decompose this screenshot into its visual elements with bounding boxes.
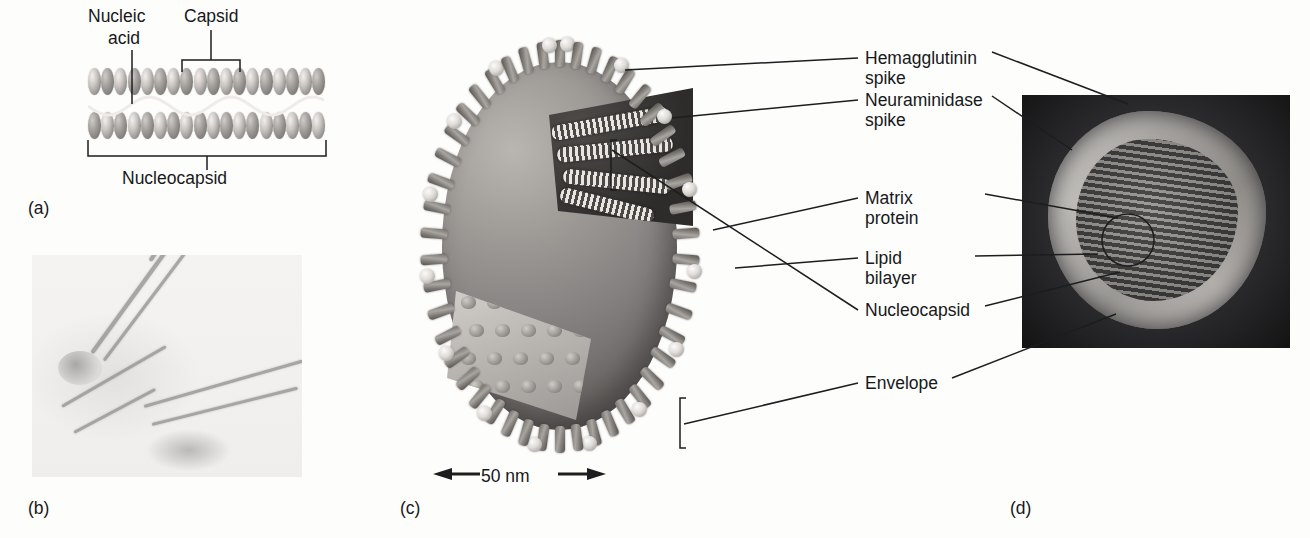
bracket-nucleocapsid-a [88,140,326,156]
neuraminidase-spike [423,187,438,202]
label-lipid-line1: Lipid [865,248,902,268]
micrograph-debris [58,351,102,385]
helical-capsid-illustration [88,68,326,140]
micrograph-virion-core [1076,139,1238,301]
hemagglutinin-spike [500,409,520,438]
label-nucleic-acid-line2: acid [108,28,140,48]
matrix-protein-bump [521,324,536,337]
micrograph-filament [90,255,181,354]
neuraminidase-spike [632,402,647,417]
label-nucleic-acid-line1: Nucleic [88,6,145,26]
neuraminidase-spike [542,38,557,53]
scale-bar-label: 50 nm [481,466,530,486]
hemagglutinin-spike [420,227,448,239]
matrix-protein-bump [547,380,562,393]
matrix-protein-bump [565,352,580,365]
micrograph-filament [144,360,302,408]
hemagglutinin-spike [672,227,700,239]
label-capsid: Capsid [184,6,238,26]
neuraminidase-spike [439,346,454,361]
nucleic-acid-strand [88,68,326,140]
matrix-protein-bump [521,380,536,393]
panel-letter-b: (b) [28,498,49,519]
panel-letter-d: (d) [1010,498,1031,519]
influenza-virion-illustration [395,20,725,470]
label-lipid-line2: bilayer [865,268,917,288]
micrograph-virion-cross-section [1022,95,1290,348]
virus-structure-figure: Nucleic acid Capsid Nucleocapsid (a) (b)… [0,0,1310,538]
neuraminidase-spike [657,109,672,124]
neuraminidase-spike [669,342,684,357]
micrograph-filament [149,255,262,262]
micrograph-filament [152,387,298,426]
neuraminidase-spike [477,406,492,421]
hemagglutinin-spike [518,46,535,75]
hemagglutinin-spike [570,424,584,452]
label-matrix-line1: Matrix [865,188,913,208]
micrograph-virion-outline [1048,111,1266,329]
neuraminidase-spike [682,182,697,197]
neuraminidase-spike [582,436,597,451]
label-hemagglutinin-line1: Hemagglutinin [865,48,977,68]
leader-lipid-left [735,258,858,268]
matrix-protein-bump [461,296,476,309]
neuraminidase-spike [687,264,702,279]
label-neuraminidase-line1: Neuraminidase [865,90,983,110]
hemagglutinin-spike [664,302,693,320]
matrix-protein-bump [539,352,554,365]
matrix-protein-bump [495,380,510,393]
micrograph-filament [103,255,190,361]
matrix-protein-bump [513,352,528,365]
label-neuraminidase-line2: spike [865,110,906,130]
hemagglutinin-spike [420,254,448,266]
hemagglutinin-spike [600,409,620,438]
panel-letter-c: (c) [400,498,420,519]
micrograph-filament [73,388,155,433]
matrix-protein-bump [469,324,484,337]
neuraminidase-spike [447,114,462,129]
hemagglutinin-spike [586,46,603,75]
label-matrix-line2: protein [865,208,919,228]
label-envelope: Envelope [865,373,938,393]
matrix-protein-bump [487,352,502,365]
micrograph-helical-nucleocapsids [32,255,302,477]
leader-matrix-left [713,198,858,230]
label-nucleocapsid-c: Nucleocapsid [865,300,970,320]
page-bleed-text [18,118,24,144]
matrix-protein-bump [495,324,510,337]
neuraminidase-spike [420,269,435,284]
hemagglutinin-spike [555,426,565,453]
hemagglutinin-spike [639,365,666,391]
label-hemagglutinin-line2: spike [865,68,906,88]
panel-letter-a: (a) [28,198,49,219]
label-nucleocapsid-a: Nucleocapsid [122,168,227,188]
